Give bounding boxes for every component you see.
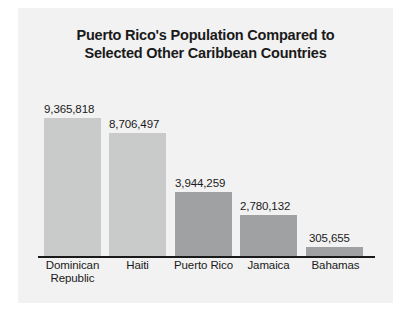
bar-group-haiti: 8,706,497 bbox=[109, 133, 166, 257]
category-label-line-1: Dominican bbox=[38, 259, 107, 272]
bar-value-jamaica: 2,780,132 bbox=[240, 200, 290, 212]
bar-puerto-rico bbox=[175, 192, 232, 257]
bar-haiti bbox=[109, 133, 166, 257]
x-axis-line bbox=[38, 256, 375, 259]
bar-value-puerto-rico: 3,944,259 bbox=[175, 177, 225, 189]
category-label-line-1: Jamaica bbox=[238, 259, 299, 272]
category-label-line-1: Haiti bbox=[108, 259, 167, 272]
bar-group-puerto-rico: 3,944,259 bbox=[175, 192, 232, 257]
category-label-line-1: Bahamas bbox=[304, 259, 367, 272]
category-label-bahamas: Bahamas bbox=[304, 259, 367, 272]
chart-card: Puerto Rico's Population Compared to Sel… bbox=[18, 8, 393, 303]
category-label-puerto-rico: Puerto Rico bbox=[170, 259, 237, 272]
bar-value-dominican-republic: 9,365,818 bbox=[44, 103, 94, 115]
bar-group-jamaica: 2,780,132 bbox=[240, 215, 297, 257]
category-label-line-2: Republic bbox=[38, 272, 107, 285]
bar-dominican-republic bbox=[44, 118, 101, 257]
category-label-jamaica: Jamaica bbox=[238, 259, 299, 272]
bar-value-bahamas: 305,655 bbox=[309, 232, 350, 244]
plot-area: 9,365,818 8,706,497 3,944,259 2,780,132 … bbox=[18, 8, 393, 303]
bar-jamaica bbox=[240, 215, 297, 257]
category-label-dominican-republic: Dominican Republic bbox=[38, 259, 107, 285]
category-label-line-1: Puerto Rico bbox=[170, 259, 237, 272]
category-label-haiti: Haiti bbox=[108, 259, 167, 272]
bar-value-haiti: 8,706,497 bbox=[109, 118, 159, 130]
bar-group-dominican-republic: 9,365,818 bbox=[44, 118, 101, 257]
